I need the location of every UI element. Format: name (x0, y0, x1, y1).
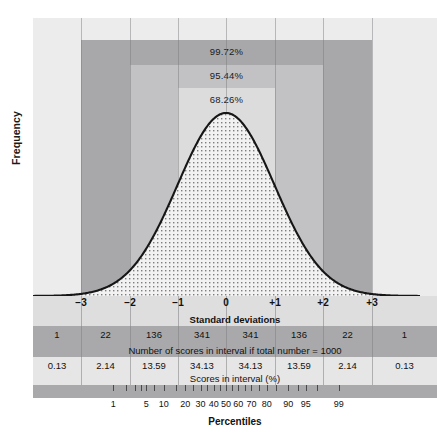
counts-caption: Number of scores in interval if total nu… (33, 345, 437, 356)
percent-cell: 2.14 (81, 360, 130, 371)
percentile-tick (164, 385, 165, 391)
count-cell: 136 (275, 329, 323, 340)
percentile-label: 1 (100, 399, 126, 409)
y-axis-label: Frequency (10, 98, 26, 178)
count-cell: 341 (226, 329, 275, 340)
percentile-tick (185, 385, 186, 391)
percentile-tick (267, 385, 268, 391)
x-axis-label: Standard deviations (33, 314, 437, 325)
percentile-tick (226, 385, 227, 391)
percentile-tick (146, 385, 147, 391)
percentile-tick (276, 385, 277, 391)
percentile-scale-strip (33, 385, 437, 398)
percentile-tick-labels: 151020304050607080909599 (33, 399, 437, 413)
percentile-tick (298, 385, 299, 391)
sd-tick-plus2: +2 (308, 297, 338, 308)
percent-cell: 13.59 (275, 360, 323, 371)
count-cell: 136 (130, 329, 178, 340)
percent-cell: 0.13 (372, 360, 437, 371)
percent-caption: Scores in interval (%) (33, 373, 437, 384)
percentile-tick (232, 385, 233, 391)
percentile-tick (220, 385, 221, 391)
percentile-label: 99 (326, 399, 352, 409)
count-cell: 1 (372, 329, 437, 340)
percentile-tick (113, 385, 114, 391)
sd-tick-plus1: +1 (260, 297, 290, 308)
sd-tick-minus2: −2 (115, 297, 145, 308)
percentile-tick (193, 385, 194, 391)
percent-cell: 2.14 (323, 360, 372, 371)
sd-tick-zero: 0 (211, 297, 241, 308)
percent-cell: 34.13 (226, 360, 275, 371)
count-cell: 22 (323, 329, 372, 340)
percentile-tick (135, 385, 136, 391)
percent-row: 0.13 2.14 13.59 34.13 34.13 13.59 2.14 0… (33, 357, 437, 385)
percentile-tick (201, 385, 202, 391)
percent-cell: 13.59 (130, 360, 178, 371)
percentile-tick (288, 385, 289, 391)
plot-area: 99.72% 95.44% 68.26% (33, 18, 437, 296)
percentile-tick (141, 385, 142, 391)
normal-distribution-figure: Frequency 99.72% 95.44% 68.26% (0, 0, 437, 435)
percentile-tick (317, 385, 318, 391)
counts-row: 1 22 136 341 341 136 22 1 Number of scor… (33, 326, 437, 357)
percentile-tick (238, 385, 239, 391)
percentile-tick (214, 385, 215, 391)
count-cell: 341 (178, 329, 226, 340)
percentile-tick (126, 385, 127, 391)
count-cell: 1 (33, 329, 81, 340)
percentile-axis-label: Percentiles (33, 416, 437, 427)
percentile-tick (259, 385, 260, 391)
sd-tick-minus3: −3 (66, 297, 96, 308)
percentile-tick (339, 385, 340, 391)
bell-curve (33, 18, 437, 296)
percent-cell: 0.13 (33, 360, 81, 371)
percentile-tick (207, 385, 208, 391)
percent-cell: 34.13 (178, 360, 226, 371)
percentile-tick (306, 385, 307, 391)
count-cell: 22 (81, 329, 130, 340)
percentile-label: 95 (293, 399, 319, 409)
percentile-tick (154, 385, 155, 391)
sd-tick-minus1: −1 (163, 297, 193, 308)
sd-tick-plus3: +3 (357, 297, 387, 308)
percentile-tick (251, 385, 252, 391)
bell-curve-fill (74, 113, 379, 296)
percentile-tick (245, 385, 246, 391)
percentile-tick (176, 385, 177, 391)
standard-deviation-axis-row: −3 −2 −1 0 +1 +2 +3 Standard deviations (33, 296, 437, 326)
